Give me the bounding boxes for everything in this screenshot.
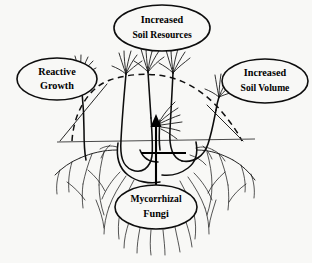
callout-mycorrhizal-fungi[interactable]: Mycorrhizal Fungi bbox=[115, 185, 197, 229]
callout-ellipse-shape bbox=[222, 59, 308, 103]
callout-increased-soil-resources-line1: Increased bbox=[141, 14, 184, 25]
root-hair-fan-center-left bbox=[112, 51, 142, 74]
callout-increased-soil-volume-line1: Increased bbox=[244, 67, 287, 78]
callout-ellipse-shape bbox=[115, 185, 197, 229]
callout-increased-soil-volume[interactable]: Increased Soil Volume bbox=[222, 59, 308, 103]
root-hair-fan-top-right bbox=[159, 49, 190, 73]
callout-ellipse-shape bbox=[114, 5, 210, 51]
callout-reactive-growth-line1: Reactive bbox=[38, 66, 76, 77]
callout-reactive-growth-line2: Growth bbox=[40, 80, 74, 91]
diagram-canvas: Reactive Growth Increased Soil Resources… bbox=[0, 0, 312, 263]
callout-reactive-growth[interactable]: Reactive Growth bbox=[17, 58, 97, 100]
root-loops bbox=[80, 72, 219, 171]
callout-increased-soil-volume-line2: Soil Volume bbox=[241, 82, 291, 93]
nutrient-transfer-arrow bbox=[141, 114, 186, 188]
callout-increased-soil-resources[interactable]: Increased Soil Resources bbox=[114, 5, 210, 51]
callout-mycorrhizal-fungi-line2: Fungi bbox=[143, 208, 169, 219]
callout-mycorrhizal-fungi-line1: Mycorrhizal bbox=[130, 193, 181, 204]
mycorrhizal-diagram: Reactive Growth Increased Soil Resources… bbox=[0, 0, 312, 263]
callout-ellipse-shape bbox=[17, 58, 97, 100]
callout-increased-soil-resources-line2: Soil Resources bbox=[132, 29, 192, 40]
